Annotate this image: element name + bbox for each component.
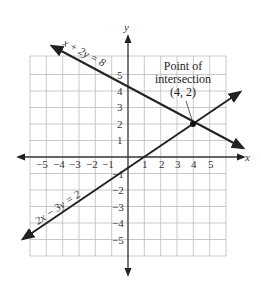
annotation-line1: Point of — [164, 59, 202, 73]
coordinate-graph: x y −5 −4 −3 −2 −1 1 2 3 4 5 5 4 3 2 1 −… — [0, 0, 261, 293]
equation-label-2: 2x − 3y = 2 — [32, 187, 82, 226]
svg-text:3: 3 — [117, 101, 123, 113]
svg-text:−4: −4 — [112, 217, 124, 229]
line-x-plus-2y-eq-8 — [52, 46, 243, 148]
intersection-point — [190, 121, 196, 127]
svg-text:5: 5 — [117, 69, 123, 81]
svg-text:−3: −3 — [112, 201, 124, 213]
annotation-line3: (4, 2) — [170, 85, 196, 99]
svg-text:−3: −3 — [69, 158, 81, 170]
svg-text:4: 4 — [191, 158, 197, 170]
svg-text:2: 2 — [117, 118, 123, 130]
svg-text:−2: −2 — [112, 184, 124, 196]
svg-text:1: 1 — [117, 134, 123, 146]
svg-text:3: 3 — [175, 158, 181, 170]
svg-text:−2: −2 — [86, 158, 98, 170]
annotation-line2: intersection — [155, 72, 211, 86]
svg-text:−5: −5 — [112, 234, 124, 246]
svg-text:5: 5 — [208, 158, 214, 170]
svg-text:−4: −4 — [53, 158, 65, 170]
x-axis-label: x — [244, 151, 250, 163]
x-tick-labels: −5 −4 −3 −2 −1 1 2 3 4 5 — [36, 158, 214, 170]
svg-text:2: 2 — [159, 158, 165, 170]
svg-text:−5: −5 — [36, 158, 48, 170]
svg-text:4: 4 — [117, 85, 123, 97]
y-axis-label: y — [123, 21, 129, 33]
svg-text:1: 1 — [142, 158, 148, 170]
